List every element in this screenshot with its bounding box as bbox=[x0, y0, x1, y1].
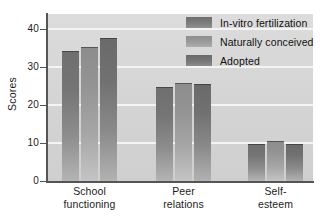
bar-top-edge bbox=[100, 38, 117, 39]
legend-swatch-icon bbox=[186, 17, 212, 28]
bar bbox=[81, 47, 98, 181]
bar bbox=[175, 83, 192, 181]
bar bbox=[156, 87, 173, 182]
x-axis-line bbox=[46, 181, 314, 183]
bar bbox=[267, 141, 284, 181]
bar-top-edge bbox=[194, 84, 211, 85]
legend: In-vitro fertilizationNaturally conceive… bbox=[186, 15, 314, 72]
bar-top-edge bbox=[267, 141, 284, 142]
bar-chart: 010203040 Scores SchoolfunctioningPeerre… bbox=[0, 0, 322, 217]
x-axis-category-line: functioning bbox=[45, 198, 135, 211]
bar-top-edge bbox=[286, 144, 303, 145]
y-tick-20 bbox=[40, 105, 47, 106]
bar bbox=[62, 51, 79, 181]
legend-label: Naturally conceived bbox=[220, 36, 314, 48]
bar-top-edge bbox=[175, 83, 192, 84]
legend-swatch-icon bbox=[186, 36, 212, 47]
legend-item: In-vitro fertilization bbox=[186, 15, 314, 30]
y-axis-line bbox=[46, 13, 48, 182]
y-tick-label-10: 10 bbox=[27, 138, 39, 148]
y-tick-label-30: 30 bbox=[27, 62, 39, 72]
x-axis-category-label: Self-esteem bbox=[231, 185, 321, 210]
y-tick-label-40: 40 bbox=[27, 24, 39, 34]
legend-item: Naturally conceived bbox=[186, 34, 314, 49]
legend-label: In-vitro fertilization bbox=[220, 17, 307, 29]
y-tick-40 bbox=[40, 29, 47, 30]
bar-top-edge bbox=[62, 51, 79, 52]
x-axis-category-line: esteem bbox=[231, 198, 321, 211]
legend-swatch-icon bbox=[186, 55, 212, 66]
x-axis-category-line: relations bbox=[139, 198, 229, 211]
x-axis-category-line: School bbox=[45, 185, 135, 198]
x-axis-category-line: Peer bbox=[139, 185, 229, 198]
legend-label: Adopted bbox=[220, 55, 260, 67]
y-tick-30 bbox=[40, 67, 47, 68]
bar bbox=[286, 144, 303, 181]
legend-item: Adopted bbox=[186, 53, 314, 68]
bar bbox=[100, 38, 117, 181]
x-axis-category-label: Peerrelations bbox=[139, 185, 229, 210]
y-axis-title: Scores bbox=[6, 64, 18, 124]
bar-top-edge bbox=[156, 87, 173, 88]
x-axis-category-line: Self- bbox=[231, 185, 321, 198]
bar-top-edge bbox=[81, 47, 98, 48]
y-tick-0 bbox=[40, 181, 47, 182]
bar bbox=[248, 144, 265, 181]
y-tick-10 bbox=[40, 143, 47, 144]
bar-top-edge bbox=[248, 144, 265, 145]
y-tick-label-0: 0 bbox=[33, 176, 39, 186]
y-tick-label-20: 20 bbox=[27, 100, 39, 110]
x-axis-category-label: Schoolfunctioning bbox=[45, 185, 135, 210]
bar bbox=[194, 84, 211, 181]
